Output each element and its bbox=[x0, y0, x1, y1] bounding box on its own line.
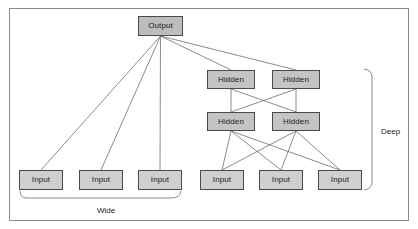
node-input_d2[interactable]: Input bbox=[259, 170, 303, 190]
node-label: Input bbox=[331, 176, 349, 184]
edge-output-to-input_w2 bbox=[101, 36, 161, 170]
edge-hidden_br-to-input_d3 bbox=[296, 131, 340, 170]
deep-annotation-label: Deep bbox=[381, 128, 400, 136]
node-hidden_br[interactable]: Hidden bbox=[272, 112, 320, 131]
edge-hidden_bl-to-input_d2 bbox=[231, 131, 281, 170]
node-label: Input bbox=[92, 176, 110, 184]
node-label: Input bbox=[32, 176, 50, 184]
edge-group bbox=[41, 36, 340, 170]
wide-annotation-label: Wide bbox=[97, 207, 115, 215]
node-label: Hidden bbox=[218, 76, 244, 84]
edge-hidden_bl-to-input_d1 bbox=[222, 131, 231, 170]
diagram-canvas: OutputHiddenHiddenHiddenHiddenInputInput… bbox=[0, 0, 418, 229]
node-hidden_tr[interactable]: Hidden bbox=[272, 70, 320, 89]
edge-output-to-hidden_tl bbox=[161, 36, 232, 70]
node-input_w3[interactable]: Input bbox=[138, 170, 182, 190]
node-output[interactable]: Output bbox=[138, 16, 183, 36]
node-label: Hidden bbox=[218, 118, 244, 126]
edge-output-to-input_w3 bbox=[160, 36, 161, 170]
node-label: Input bbox=[213, 176, 231, 184]
node-label: Input bbox=[272, 176, 290, 184]
deep-brace bbox=[364, 69, 372, 190]
node-input_w1[interactable]: Input bbox=[19, 170, 63, 190]
node-input_d3[interactable]: Input bbox=[318, 170, 362, 190]
edge-output-to-input_w1 bbox=[41, 36, 161, 170]
node-label: Output bbox=[148, 22, 173, 30]
wide-brace bbox=[20, 191, 181, 198]
edge-output-to-hidden_tr bbox=[161, 36, 297, 70]
node-label: Hidden bbox=[283, 76, 309, 84]
node-input_w2[interactable]: Input bbox=[79, 170, 123, 190]
node-hidden_tl[interactable]: Hidden bbox=[207, 70, 255, 89]
node-label: Input bbox=[151, 176, 169, 184]
edge-hidden_br-to-input_d2 bbox=[281, 131, 296, 170]
node-label: Hidden bbox=[283, 118, 309, 126]
node-input_d1[interactable]: Input bbox=[200, 170, 244, 190]
node-hidden_bl[interactable]: Hidden bbox=[207, 112, 255, 131]
